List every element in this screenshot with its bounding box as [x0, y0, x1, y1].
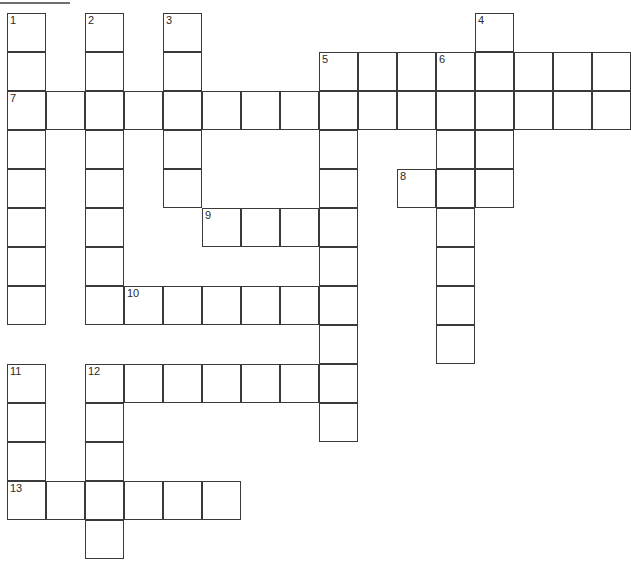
crossword-cell[interactable]: 8 — [397, 169, 436, 208]
crossword-cell[interactable] — [85, 247, 124, 286]
crossword-cell[interactable] — [241, 208, 280, 247]
crossword-cell[interactable] — [241, 286, 280, 325]
crossword-cell[interactable] — [553, 52, 592, 91]
crossword-cell[interactable]: 13 — [7, 481, 46, 520]
crossword-cell[interactable] — [280, 364, 319, 403]
crossword-cell[interactable] — [85, 520, 124, 559]
crossword-cell[interactable] — [163, 481, 202, 520]
crossword-cell[interactable] — [202, 286, 241, 325]
clue-number: 10 — [127, 287, 139, 300]
crossword-cell[interactable] — [85, 442, 124, 481]
crossword-cell[interactable] — [280, 208, 319, 247]
crossword-cell[interactable] — [553, 91, 592, 130]
crossword-cell[interactable] — [319, 286, 358, 325]
crossword-cell[interactable] — [475, 130, 514, 169]
crossword-cell[interactable] — [319, 169, 358, 208]
crossword-cell[interactable] — [475, 169, 514, 208]
crossword-cell[interactable] — [124, 481, 163, 520]
crossword-cell[interactable] — [436, 169, 475, 208]
crossword-cell[interactable]: 5 — [319, 52, 358, 91]
crossword-cell[interactable] — [436, 247, 475, 286]
crossword-cell[interactable]: 3 — [163, 13, 202, 52]
crossword-cell[interactable] — [397, 91, 436, 130]
crossword-cell[interactable] — [319, 325, 358, 364]
crossword-cell[interactable] — [85, 52, 124, 91]
clue-number: 2 — [88, 14, 94, 27]
crossword-cell[interactable] — [319, 208, 358, 247]
crossword-cell[interactable] — [85, 208, 124, 247]
crossword-cell[interactable] — [7, 442, 46, 481]
crossword-cell[interactable] — [85, 91, 124, 130]
clue-number: 3 — [166, 14, 172, 27]
crossword-cell[interactable] — [163, 91, 202, 130]
crossword-cell[interactable]: 12 — [85, 364, 124, 403]
crossword-cell[interactable]: 2 — [85, 13, 124, 52]
crossword-cell[interactable] — [436, 130, 475, 169]
crossword-cell[interactable]: 7 — [7, 91, 46, 130]
crossword-cell[interactable] — [280, 286, 319, 325]
crossword-cell[interactable] — [124, 91, 163, 130]
crossword-cell[interactable] — [202, 481, 241, 520]
crossword-cell[interactable] — [358, 52, 397, 91]
clue-number: 1 — [10, 14, 16, 27]
crossword-cell[interactable] — [7, 247, 46, 286]
crossword-cell[interactable] — [202, 91, 241, 130]
clue-number: 7 — [10, 92, 16, 105]
crossword-cell[interactable] — [85, 130, 124, 169]
crossword-cell[interactable] — [241, 91, 280, 130]
crossword-cell[interactable] — [124, 364, 163, 403]
crossword-cell[interactable] — [436, 286, 475, 325]
crossword-cell[interactable] — [163, 130, 202, 169]
crossword-cell[interactable] — [163, 364, 202, 403]
crossword-cell[interactable] — [436, 325, 475, 364]
clue-number: 6 — [439, 53, 445, 66]
crossword-cell[interactable] — [514, 91, 553, 130]
crossword-cell[interactable] — [7, 52, 46, 91]
crossword-cell[interactable] — [514, 52, 553, 91]
crossword-cell[interactable]: 11 — [7, 364, 46, 403]
crossword-cell[interactable] — [7, 208, 46, 247]
crossword-cell[interactable] — [397, 52, 436, 91]
crossword-cell[interactable] — [592, 52, 631, 91]
crossword-cell[interactable] — [163, 286, 202, 325]
crossword-cell[interactable] — [46, 91, 85, 130]
crossword-cell[interactable] — [163, 169, 202, 208]
crossword-cell[interactable] — [319, 91, 358, 130]
clue-number: 8 — [400, 170, 406, 183]
crossword-cell[interactable] — [7, 286, 46, 325]
crossword-cell[interactable]: 9 — [202, 208, 241, 247]
crossword-cell[interactable] — [319, 247, 358, 286]
crossword-cell[interactable] — [7, 403, 46, 442]
crossword-cell[interactable]: 1 — [7, 13, 46, 52]
crossword-cell[interactable] — [85, 286, 124, 325]
clue-number: 5 — [322, 53, 328, 66]
crossword-cell[interactable] — [592, 91, 631, 130]
crossword-cell[interactable] — [319, 364, 358, 403]
crossword-cell[interactable] — [319, 130, 358, 169]
clue-number: 9 — [205, 209, 211, 222]
clue-number: 12 — [88, 365, 100, 378]
crossword-cell[interactable] — [46, 481, 85, 520]
crossword-cell[interactable] — [7, 130, 46, 169]
crossword-cell[interactable] — [7, 169, 46, 208]
crossword-cell[interactable]: 6 — [436, 52, 475, 91]
crossword-cell[interactable] — [475, 91, 514, 130]
crossword-cell[interactable] — [85, 481, 124, 520]
crossword-cell[interactable] — [241, 364, 280, 403]
crossword-cell[interactable] — [358, 91, 397, 130]
clue-number: 4 — [478, 14, 484, 27]
crossword-cell[interactable] — [85, 169, 124, 208]
crossword-cell[interactable] — [475, 52, 514, 91]
crossword-cell[interactable] — [163, 52, 202, 91]
crossword-cell[interactable] — [280, 91, 319, 130]
crossword-cell[interactable] — [202, 364, 241, 403]
crossword-cell[interactable]: 10 — [124, 286, 163, 325]
crossword-cell[interactable] — [85, 403, 124, 442]
crossword-cell[interactable] — [319, 403, 358, 442]
crossword-cell[interactable]: 4 — [475, 13, 514, 52]
crossword-cell[interactable] — [436, 208, 475, 247]
clue-number: 11 — [10, 365, 21, 378]
crossword-cell[interactable] — [436, 91, 475, 130]
